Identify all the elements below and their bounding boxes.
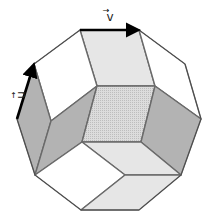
vector-u-arrow-accent: → (9, 91, 18, 98)
rhombic-tiling-diagram: v → u → (0, 0, 214, 223)
vector-v-arrow-accent: → (103, 6, 110, 15)
tiles-group (17, 30, 201, 210)
